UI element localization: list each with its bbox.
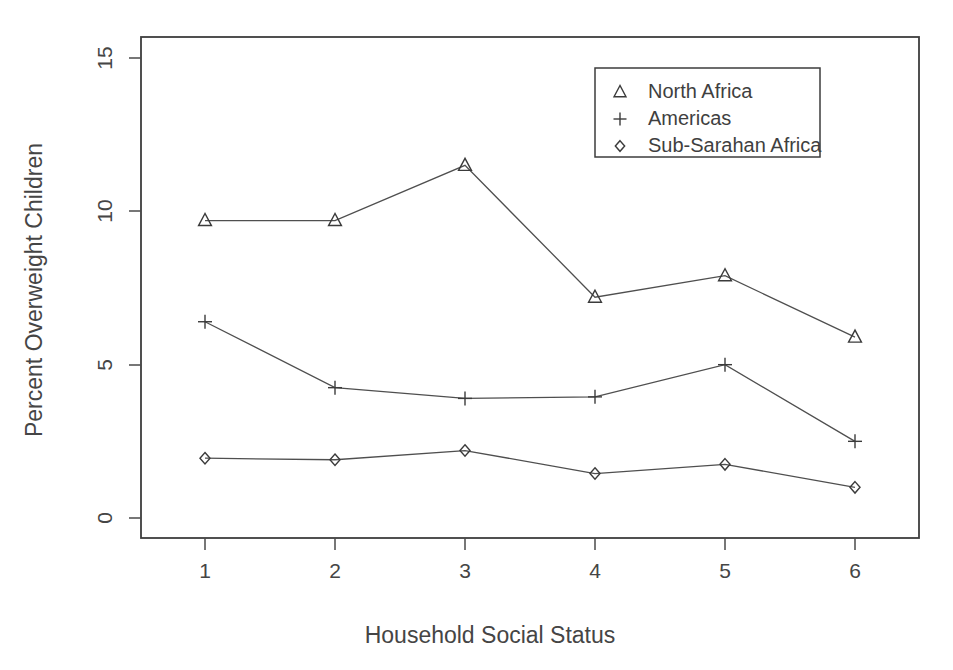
y-tick-label-5: 5 xyxy=(93,359,116,371)
y-tick-label-0: 0 xyxy=(93,512,116,524)
plus-marker xyxy=(328,381,342,395)
triangle-up-marker xyxy=(459,158,472,170)
x-axis-title: Household Social Status xyxy=(365,622,616,648)
legend-label-sub-sarahan-africa: Sub-Sarahan Africa xyxy=(648,134,822,156)
y-tick-label-15: 15 xyxy=(93,46,116,69)
triangle-up-marker xyxy=(849,330,862,342)
chart-figure: 0 5 10 15 Percent Overweight Children 1 … xyxy=(0,0,953,670)
legend: North Africa Americas Sub-Sarahan Africa xyxy=(595,68,822,157)
triangle-up-marker xyxy=(329,214,342,226)
x-tick-label-1: 1 xyxy=(199,559,211,582)
triangle-up-marker xyxy=(199,214,212,226)
y-axis-ticks xyxy=(129,58,141,518)
plus-marker xyxy=(588,390,602,404)
plus-marker xyxy=(848,434,862,448)
series-sub-sarahan-africa xyxy=(200,445,860,493)
y-axis-title: Percent Overweight Children xyxy=(21,143,47,437)
line-chart-canvas: 0 5 10 15 Percent Overweight Children 1 … xyxy=(0,0,953,670)
x-tick-label-5: 5 xyxy=(719,559,731,582)
x-axis-ticks xyxy=(205,538,855,550)
legend-label-north-africa: North Africa xyxy=(648,80,753,102)
series-line xyxy=(205,451,855,488)
series-line xyxy=(205,165,855,337)
series-north-africa xyxy=(199,158,862,342)
plus-marker xyxy=(458,391,472,405)
series-americas xyxy=(198,315,862,449)
plus-marker xyxy=(198,315,212,329)
y-tick-label-10: 10 xyxy=(93,199,116,222)
x-tick-label-2: 2 xyxy=(329,559,341,582)
triangle-up-marker xyxy=(719,269,732,281)
x-tick-label-3: 3 xyxy=(459,559,471,582)
x-tick-label-6: 6 xyxy=(849,559,861,582)
series-line xyxy=(205,322,855,442)
legend-label-americas: Americas xyxy=(648,107,731,129)
series-layer xyxy=(198,158,862,493)
cut-off-title-text xyxy=(40,0,560,3)
plus-marker xyxy=(718,358,732,372)
x-tick-label-4: 4 xyxy=(589,559,601,582)
